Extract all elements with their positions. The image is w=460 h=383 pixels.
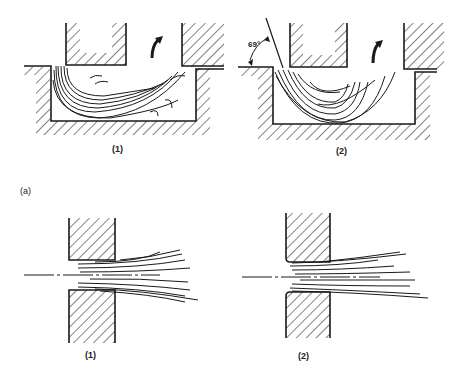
part-label: (a) bbox=[20, 186, 31, 196]
flow-arrow-icon bbox=[373, 44, 378, 63]
punch bbox=[290, 23, 348, 67]
punch bbox=[66, 23, 126, 65]
bottom-right-figure bbox=[242, 213, 428, 338]
lower-block bbox=[286, 292, 330, 338]
upper-block bbox=[69, 218, 115, 260]
diagram-canvas bbox=[0, 0, 460, 383]
angle-arrow-top-icon bbox=[264, 36, 270, 42]
caption-top-right: (2) bbox=[336, 146, 347, 156]
upper-die-right bbox=[182, 23, 224, 67]
angle-label: 69° bbox=[248, 40, 260, 49]
flow-arrow-icon bbox=[152, 40, 158, 58]
lower-block bbox=[69, 290, 115, 343]
angle-line bbox=[266, 18, 283, 68]
upper-block bbox=[286, 213, 330, 262]
flow-lines bbox=[275, 70, 395, 123]
top-right-figure bbox=[238, 18, 444, 140]
top-left-figure bbox=[24, 23, 224, 135]
caption-bottom-right: (2) bbox=[298, 351, 309, 361]
flow-lines bbox=[53, 66, 185, 118]
bottom-left-figure bbox=[24, 218, 198, 343]
caption-bottom-left: (1) bbox=[85, 350, 96, 360]
caption-top-left: (1) bbox=[112, 144, 123, 154]
upper-die-right bbox=[404, 23, 444, 69]
